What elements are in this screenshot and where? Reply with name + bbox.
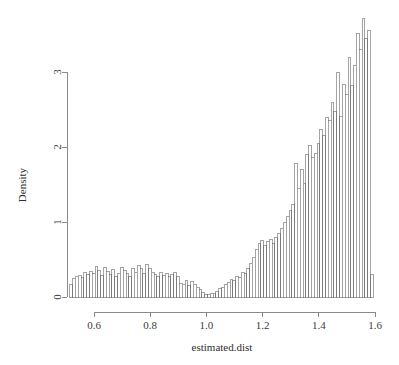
axis-labels: estimated.distDensity <box>16 167 252 353</box>
histogram-bar <box>129 276 132 297</box>
histogram-bar <box>123 271 126 297</box>
histogram-bar <box>92 274 95 297</box>
histogram-bar <box>252 257 255 297</box>
x-axis-tick-label: 1.4 <box>312 319 326 331</box>
histogram-bar <box>295 164 298 298</box>
histogram-bar <box>81 278 84 298</box>
histogram-bar <box>126 274 129 297</box>
histogram-bar <box>109 275 112 298</box>
histogram-bar <box>95 266 98 297</box>
histogram-bar <box>75 277 78 297</box>
histogram-bar <box>120 267 123 297</box>
histogram-bar <box>151 272 154 297</box>
histogram-bar <box>101 275 104 297</box>
histogram-bar <box>292 204 295 297</box>
histogram-bar <box>84 272 87 297</box>
histogram-bar <box>98 271 101 297</box>
histogram-bar <box>331 102 334 297</box>
histogram-bar <box>179 284 182 298</box>
histogram-bar <box>348 57 351 297</box>
histogram-bar <box>174 272 177 297</box>
x-axis-tick-label: 1.0 <box>200 319 214 331</box>
y-axis-tick-label: 2 <box>51 144 63 150</box>
y-axis-tick-label: 1 <box>51 219 63 225</box>
histogram-plot: 0123 0.60.81.01.21.41.6 estimated.distDe… <box>0 0 399 365</box>
histogram-bar <box>104 268 107 297</box>
histogram-bar <box>205 294 208 297</box>
histogram-bar <box>236 276 239 297</box>
histogram-bar <box>345 95 348 298</box>
histogram-bar <box>154 275 157 298</box>
y-axis-tick-label: 0 <box>51 294 63 300</box>
histogram-bar <box>342 85 345 297</box>
histogram-bar <box>278 233 281 297</box>
histogram-bar <box>264 245 267 297</box>
histogram-bar <box>160 272 163 297</box>
histogram-bar <box>247 269 250 298</box>
histogram-bar <box>78 275 81 297</box>
histogram-bar <box>227 282 230 297</box>
histogram-bar <box>337 73 340 297</box>
histogram-bar <box>188 286 191 297</box>
histogram-bar <box>191 281 194 297</box>
histogram-bar <box>233 281 236 298</box>
histogram-bar <box>132 269 135 298</box>
histogram-bar <box>250 263 253 297</box>
histogram-bar <box>258 243 261 297</box>
histogram-bar <box>230 279 233 297</box>
histogram-bar <box>261 240 264 297</box>
histogram-bar <box>368 31 371 297</box>
histogram-bar <box>238 278 241 298</box>
histogram-bar <box>334 111 337 297</box>
histogram-bar <box>303 183 306 297</box>
histogram-bar <box>359 50 362 298</box>
histogram-bar <box>244 274 247 297</box>
histogram-bar <box>314 153 317 297</box>
histogram-bar <box>241 272 244 297</box>
histogram-bar <box>171 275 174 298</box>
histogram-bar <box>222 287 225 297</box>
y-axis-tick-label: 3 <box>51 69 63 75</box>
histogram-bar <box>323 135 326 297</box>
y-axis: 0123 <box>51 69 67 300</box>
histogram-bar <box>137 266 140 298</box>
histogram-bar <box>87 275 90 298</box>
plot-canvas: 0123 0.60.81.01.21.41.6 estimated.distDe… <box>0 0 399 365</box>
histogram-bar <box>193 284 196 297</box>
histogram-bar <box>224 284 227 297</box>
histogram-bar <box>134 272 137 297</box>
histogram-bar <box>199 290 202 298</box>
histogram-bar <box>309 146 312 298</box>
histogram-bar <box>297 188 300 297</box>
histogram-bar <box>140 269 143 298</box>
histogram-bar <box>351 86 354 298</box>
y-axis-title: Density <box>16 167 28 202</box>
histogram-bar <box>143 274 146 297</box>
histogram-bar <box>70 284 73 297</box>
histogram-bar <box>157 276 160 297</box>
histogram-bar <box>286 216 289 297</box>
histogram-bar <box>202 293 205 298</box>
histogram-bar <box>168 277 171 297</box>
histogram-bar <box>115 276 118 297</box>
histogram-bar <box>149 269 152 298</box>
histogram-bar <box>356 33 359 297</box>
histogram-bar <box>311 158 314 298</box>
x-axis-tick-label: 0.6 <box>87 319 101 331</box>
x-axis: 0.60.81.01.21.41.6 <box>87 312 382 331</box>
histogram-bar <box>289 211 292 297</box>
histogram-bar <box>267 242 270 298</box>
histogram-bar <box>371 275 374 298</box>
histogram-bar <box>306 155 309 298</box>
histogram-bar <box>269 239 272 297</box>
histogram-bar <box>340 116 343 297</box>
histogram-bar <box>208 295 211 297</box>
histogram-bar <box>362 18 365 297</box>
histogram-bar <box>165 274 168 297</box>
histogram-bar <box>210 293 213 297</box>
histogram-bar <box>118 273 121 297</box>
histogram-bar <box>177 276 180 297</box>
histogram-bar <box>255 249 258 297</box>
histogram-bar <box>216 291 219 297</box>
histogram-bar <box>283 223 286 297</box>
